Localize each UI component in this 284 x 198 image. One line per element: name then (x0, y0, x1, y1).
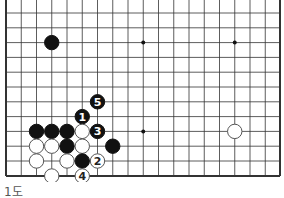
white-stone (29, 139, 43, 153)
black-stone (45, 124, 59, 138)
white-stone (29, 154, 43, 168)
black-stone (106, 139, 120, 153)
move-number: 2 (94, 155, 102, 168)
black-stone (60, 139, 74, 153)
white-stone (75, 139, 89, 153)
go-board: 51324 (0, 0, 284, 182)
white-stone (45, 139, 59, 153)
white-stone (228, 124, 242, 138)
move-number: 4 (78, 170, 86, 182)
black-stone (60, 124, 74, 138)
move-number: 1 (78, 111, 86, 124)
hoshi-point (233, 41, 237, 45)
white-stone (45, 169, 59, 182)
black-stone (29, 124, 43, 138)
white-stone (75, 124, 89, 138)
hoshi-point (141, 41, 145, 45)
black-stone (75, 154, 89, 168)
move-number: 3 (94, 125, 102, 138)
white-stone (60, 154, 74, 168)
diagram-caption: 1도 (4, 182, 23, 198)
hoshi-point (141, 129, 145, 133)
move-number: 5 (94, 96, 102, 109)
black-stone (45, 35, 59, 49)
